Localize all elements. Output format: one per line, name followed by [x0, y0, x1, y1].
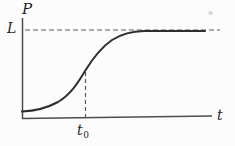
scan-artifact-dot [208, 11, 213, 15]
logistic-curve-figure: P L t t0 [0, 0, 235, 146]
logistic-curve-path [22, 31, 205, 112]
inflection-label-base: t [77, 122, 83, 138]
x-axis-label: t [217, 108, 223, 122]
asymptote-label: L [7, 21, 16, 35]
y-axis-label: P [22, 2, 32, 17]
inflection-label: t0 [77, 123, 89, 140]
inflection-label-subscript: 0 [83, 130, 89, 140]
plot-canvas [0, 0, 235, 146]
x-axis-line [22, 116, 212, 119]
